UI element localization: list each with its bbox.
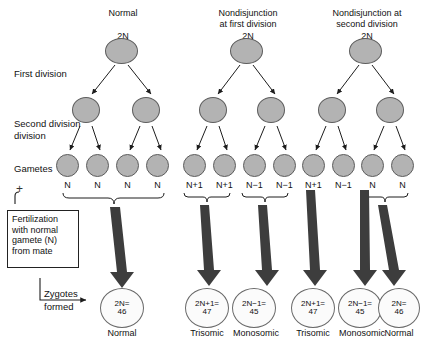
first-division-cell-nd2-1 (318, 97, 346, 123)
gamete-cell-normal-3 (116, 154, 139, 177)
gamete-label-nd2-2: N−1 (327, 180, 360, 190)
gamete-cell-normal-2 (86, 154, 109, 177)
fert-arrow-nd2-b (353, 190, 377, 286)
gamete-cell-nd1-4 (273, 154, 296, 177)
fert-arrow-nd2-a (303, 190, 327, 286)
first-division-cell-normal-1 (72, 97, 100, 123)
zygote-nd2c-line2: 46 (395, 308, 404, 317)
gamete-cell-nd1-2 (213, 154, 236, 177)
zygote-nd1b-line2: 45 (250, 308, 259, 317)
first-division-cell-nd2-2 (376, 97, 404, 123)
gamete-label-nd2-4: N (387, 180, 418, 190)
chromosomes-gametes-normal (67, 159, 157, 172)
fertilization-arrows (110, 190, 406, 288)
zygote-nd2-normal: 2N= 46 (378, 288, 420, 328)
first-division-cell-nd1-2 (257, 97, 285, 123)
zygote-outcome-nd1-monosomic: Monosomic (228, 328, 284, 338)
gamete-label-normal-2: N (82, 180, 113, 190)
gamete-cell-nd2-2 (332, 154, 355, 177)
zygote-nd1-monosomic: 2N−1= 45 (232, 288, 276, 328)
fertilization-line-2: with normal (12, 225, 74, 236)
gamete-cell-nd1-1 (183, 154, 206, 177)
gamete-label-nd1-2: N+1 (208, 180, 241, 190)
gamete-braces (63, 193, 408, 204)
zygote-normal: 2N= 46 (100, 288, 144, 328)
brace-nd1-a (184, 193, 230, 202)
gamete-cell-nd2-3 (361, 154, 384, 177)
figure-canvas: Normal Nondisjunction at first division … (0, 0, 424, 339)
zygote-normal-line2: 46 (118, 308, 127, 317)
gamete-cell-normal-4 (146, 154, 169, 177)
gamete-label-nd1-3: N−1 (238, 180, 271, 190)
parent-cell-nd1 (230, 38, 263, 64)
fertilization-line-4: from mate (12, 246, 74, 257)
gamete-cell-nd1-3 (243, 154, 266, 177)
zygote-nd2a-line2: 47 (309, 308, 318, 317)
fertilization-box: Fertilization with normal gamete (N) fro… (7, 210, 79, 268)
zygotes-label-line2: formed (44, 301, 74, 312)
fert-arrow-nd1-a (197, 205, 221, 286)
first-division-cell-nd1-1 (199, 97, 227, 123)
fertilization-line-1: Fertilization (12, 214, 74, 225)
zygote-outcome-nd2-trisomic: Trisomic (286, 328, 340, 338)
zygote-nd1a-line2: 47 (203, 308, 212, 317)
zygote-outcome-normal: Normal (100, 328, 144, 338)
parent-cell-normal (105, 38, 138, 64)
zygote-nd2-trisomic: 2N+1= 47 (291, 288, 335, 328)
fert-arrow-nd2-c (378, 205, 406, 286)
fertilization-line-3: gamete (N) (12, 235, 74, 246)
fert-arrow-normal (110, 207, 134, 288)
gamete-label-nd2-3: N (357, 180, 388, 190)
brace-nd1-b (242, 193, 288, 202)
parent-cell-nd2 (349, 38, 382, 64)
gamete-label-nd1-1: N+1 (178, 180, 211, 190)
fert-arrow-nd1-b (255, 205, 279, 286)
gamete-label-normal-4: N (142, 180, 173, 190)
brace-normal (63, 193, 164, 204)
gamete-label-normal-1: N (52, 180, 83, 190)
gamete-label-nd2-1: N+1 (297, 180, 330, 190)
zygote-nd2-monosomic: 2N−1= 45 (338, 288, 382, 328)
gamete-cell-nd2-1 (302, 154, 325, 177)
gamete-label-normal-3: N (112, 180, 143, 190)
zygote-outcome-nd1-trisomic: Trisomic (180, 328, 234, 338)
zygote-outcome-nd2-normal: Normal (378, 328, 420, 338)
gamete-cell-normal-1 (56, 154, 79, 177)
gamete-cell-nd2-4 (391, 154, 414, 177)
zygote-nd2b-line2: 45 (356, 308, 365, 317)
zygotes-label-line1: Zygotes (44, 288, 78, 299)
zygote-nd1-trisomic: 2N+1= 47 (185, 288, 229, 328)
first-division-cell-normal-2 (132, 97, 160, 123)
